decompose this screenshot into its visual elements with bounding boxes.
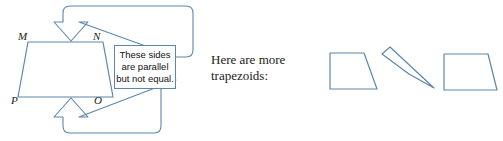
vertex-label-m: M — [18, 31, 27, 42]
trapezoid-wide-shape — [444, 54, 497, 90]
callout-line-1: These sides — [119, 49, 170, 61]
trapezoid-right-angle-shape — [330, 53, 377, 89]
callout-line-2: are parallel — [122, 61, 169, 73]
trapezoid-sliver-shape — [382, 47, 434, 88]
vertex-label-p: P — [11, 95, 18, 106]
figure-root: M N P O These sides are parallel but not… — [0, 0, 503, 141]
vertex-label-n: N — [93, 31, 100, 42]
callout-box: These sides are parallel but not equal. — [114, 45, 176, 89]
caption-line-1: Here are more — [211, 52, 311, 68]
vertex-label-o: O — [94, 95, 102, 106]
callout-line-3: but not equal. — [116, 73, 174, 85]
caption-line-2: trapezoids: — [211, 68, 311, 84]
more-trapezoids-caption: Here are more trapezoids: — [211, 52, 311, 84]
trapezoid-MNOP-shape — [18, 42, 113, 97]
